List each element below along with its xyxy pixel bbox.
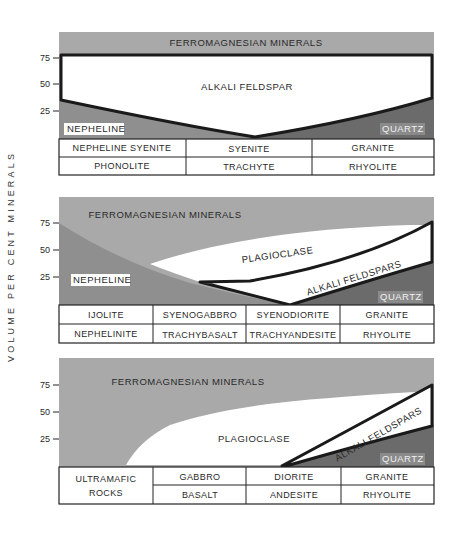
y-axis-label: VOLUME PER CENT MINERALS: [6, 151, 16, 362]
merged-rock-cell: ULTRAMAFIC: [76, 474, 137, 484]
panel-2: FERROMAGNESIAN MINERALS PLAGIOCLASE ALKA…: [40, 197, 434, 343]
panel-3: FERROMAGNESIAN MINERALS PLAGIOCLASE ALKA…: [40, 358, 434, 504]
label-plagioclase: PLAGIOCLASE: [218, 433, 290, 444]
svg-text:75: 75: [40, 218, 50, 228]
plutonic-rock-cell: GRANITE: [352, 143, 395, 153]
svg-text:25: 25: [40, 434, 50, 444]
plutonic-rock-cell: IJOLITE: [88, 310, 124, 320]
label-quartz: QUARTZ: [382, 123, 424, 134]
svg-text:25: 25: [40, 106, 50, 116]
volcanic-rock-cell: ANDESITE: [270, 490, 318, 500]
plutonic-rock-cell: GRANITE: [366, 472, 409, 482]
volcanic-rock-cell: PHONOLITE: [94, 161, 150, 171]
plutonic-rock-cell: GABBRO: [180, 472, 221, 482]
volcanic-rock-cell: NEPHELINITE: [74, 329, 137, 339]
label-alkali-feldspar: ALKALI FELDSPAR: [201, 81, 293, 92]
volcanic-rock-cell: RHYOLITE: [363, 330, 411, 340]
svg-text:50: 50: [40, 407, 50, 417]
volcanic-rock-cell: TRACHYANDESITE: [250, 330, 337, 340]
rock-name-table: IJOLITE SYENOGABBRO SYENODIORITE GRANITE…: [59, 305, 434, 343]
svg-text:50: 50: [40, 245, 50, 255]
igneous-rock-classification-diagram: VOLUME PER CENT MINERALS FERROMAGNESIAN …: [0, 0, 460, 538]
svg-text:50: 50: [40, 79, 50, 89]
label-quartz: QUARTZ: [382, 453, 424, 464]
label-nepheline: NEPHELINE: [67, 123, 125, 134]
plutonic-rock-cell: DIORITE: [274, 472, 313, 482]
svg-text:25: 25: [40, 272, 50, 282]
label-ferromagnesian: FERROMAGNESIAN MINERALS: [112, 376, 265, 387]
volcanic-rock-cell: BASALT: [182, 490, 218, 500]
label-quartz: QUARTZ: [380, 291, 422, 302]
svg-text:75: 75: [40, 53, 50, 63]
plutonic-rock-cell: SYENOGABBRO: [163, 310, 237, 320]
plutonic-rock-cell: SYENITE: [228, 144, 269, 154]
panel-1: FERROMAGNESIAN MINERALS ALKALI FELDSPAR …: [40, 32, 434, 175]
merged-rock-cell: ROCKS: [89, 488, 123, 498]
volcanic-rock-cell: TRACHYTE: [223, 162, 275, 172]
plutonic-rock-cell: SYENODIORITE: [257, 310, 330, 320]
volcanic-rock-cell: TRACHYBASALT: [162, 330, 238, 340]
y-ticks: 75 50 25: [40, 53, 59, 116]
label-nepheline: NEPHELINE: [73, 274, 131, 285]
volcanic-rock-cell: RHYOLITE: [349, 162, 397, 172]
y-ticks: 75 50 25: [40, 380, 59, 444]
plutonic-rock-cell: GRANITE: [366, 310, 409, 320]
label-ferromagnesian: FERROMAGNESIAN MINERALS: [170, 37, 323, 48]
y-ticks: 75 50 25: [40, 218, 59, 282]
svg-text:75: 75: [40, 380, 50, 390]
label-ferromagnesian: FERROMAGNESIAN MINERALS: [89, 209, 242, 220]
rock-name-table: ULTRAMAFIC ROCKS GABBRO DIORITE GRANITE …: [59, 467, 434, 504]
volcanic-rock-cell: RHYOLITE: [363, 490, 411, 500]
rock-name-table: NEPHELINE SYENITE SYENITE GRANITE PHONOL…: [59, 139, 434, 175]
plutonic-rock-cell: NEPHELINE SYENITE: [73, 143, 172, 153]
